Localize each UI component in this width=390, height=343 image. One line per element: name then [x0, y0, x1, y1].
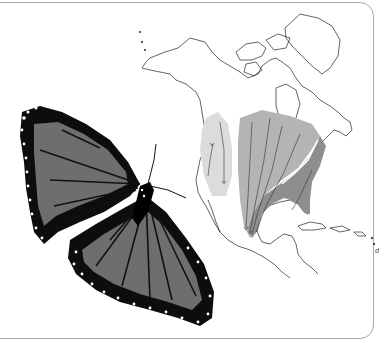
monarch-butterfly — [20, 106, 214, 326]
western-range — [200, 112, 232, 196]
migration-ranges — [200, 110, 326, 238]
corner-label: d — [375, 247, 379, 254]
illustration — [0, 0, 390, 343]
